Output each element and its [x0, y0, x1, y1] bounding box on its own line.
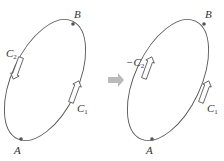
- c2-arrow-icon: [9, 56, 25, 81]
- point-a-dot: [150, 137, 154, 141]
- point-a-label: A: [145, 144, 153, 156]
- point-b-dot: [71, 22, 75, 26]
- point-a-dot: [19, 137, 23, 141]
- closed-curve: [111, 7, 224, 153]
- point-b-dot: [202, 22, 206, 26]
- transform-arrow-icon: [108, 73, 124, 87]
- point-b-label: B: [205, 8, 212, 20]
- c1-label: C1: [77, 102, 88, 116]
- point-a-label: A: [13, 144, 21, 156]
- diagram-canvas: B A C2 C1 B A −C2 C1: [0, 0, 224, 161]
- right-panel: B A −C2 C1: [111, 7, 224, 156]
- c2-label: C2: [6, 47, 17, 61]
- c1-arrow-icon: [67, 79, 83, 104]
- left-panel: B A C2 C1: [0, 7, 102, 156]
- c1-label: C1: [207, 102, 218, 116]
- point-b-label: B: [74, 8, 81, 20]
- closed-curve: [0, 7, 102, 153]
